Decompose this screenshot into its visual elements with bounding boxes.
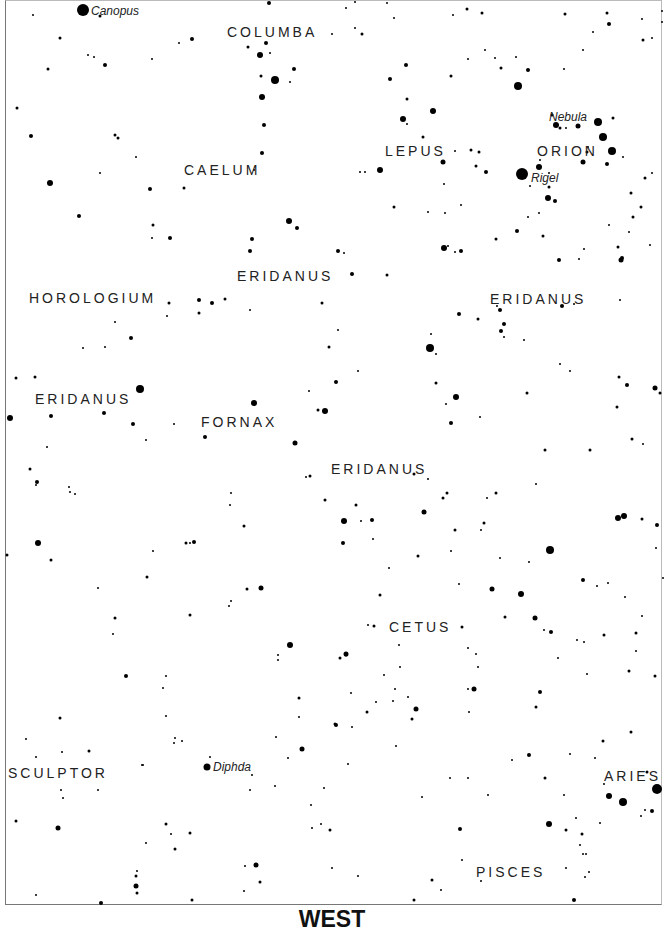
star-icon: [654, 675, 657, 678]
star-icon: [477, 318, 480, 321]
star-icon: [145, 439, 147, 441]
star-icon: [309, 475, 312, 478]
star-icon: [320, 823, 322, 825]
star-icon: [274, 785, 276, 787]
star-icon: [142, 764, 144, 766]
star-icon: [174, 848, 177, 851]
star-icon: [168, 302, 171, 305]
star-icon: [254, 863, 259, 868]
star-icon: [251, 400, 257, 406]
star-icon: [359, 171, 361, 173]
star-icon: [421, 796, 423, 798]
star-icon: [388, 77, 392, 81]
star-icon: [606, 12, 609, 15]
star-icon: [514, 82, 522, 90]
star-icon: [616, 406, 619, 409]
star-icon: [607, 582, 609, 584]
star-icon: [354, 27, 356, 29]
star-icon: [25, 738, 27, 740]
star-icon: [477, 666, 479, 668]
star-icon: [370, 518, 374, 522]
star-icon: [243, 525, 246, 528]
star-icon: [329, 829, 332, 832]
star-icon: [608, 224, 610, 226]
star-icon: [640, 206, 643, 209]
star-icon: [515, 229, 519, 233]
star-icon: [661, 10, 663, 12]
constellation-label: ERIDANUS: [35, 391, 131, 407]
star-icon: [446, 492, 449, 495]
star-icon: [632, 216, 635, 219]
star-icon: [630, 192, 633, 195]
star-icon: [470, 149, 473, 152]
star-icon: [364, 171, 366, 173]
star-icon: [377, 167, 383, 173]
star-icon: [458, 583, 460, 585]
star-icon: [259, 881, 262, 884]
star-icon: [350, 272, 354, 276]
star-icon: [173, 742, 175, 744]
star-icon: [582, 49, 584, 51]
star-icon: [93, 56, 95, 58]
star-icon: [87, 54, 89, 56]
star-icon: [467, 688, 469, 690]
star-icon: [442, 497, 445, 500]
star-icon: [499, 557, 501, 559]
star-icon: [259, 586, 264, 591]
constellation-label: CAELUM: [184, 162, 260, 178]
star-icon: [630, 731, 633, 734]
star-icon: [300, 747, 305, 752]
star-icon: [117, 137, 120, 140]
star-icon: [528, 561, 530, 563]
star-icon: [452, 14, 454, 16]
star-icon: [544, 449, 547, 452]
star-icon: [388, 567, 390, 569]
star-icon: [511, 759, 513, 761]
star-icon: [631, 438, 634, 441]
star-icon: [619, 299, 621, 301]
star-icon: [97, 587, 99, 589]
star-icon: [35, 756, 37, 758]
star-icon: [367, 624, 369, 626]
star-icon: [6, 554, 9, 557]
star-icon: [644, 809, 646, 811]
star-icon: [651, 172, 653, 174]
star-icon: [543, 629, 545, 631]
star-icon: [131, 422, 135, 426]
star-icon: [77, 4, 89, 16]
star-icon: [475, 165, 478, 168]
star-icon: [642, 443, 644, 445]
star-icon: [594, 118, 602, 126]
star-icon: [277, 654, 279, 656]
star-icon: [478, 151, 481, 154]
star-icon: [576, 124, 581, 129]
star-icon: [29, 468, 32, 471]
star-icon: [286, 218, 292, 224]
constellation-label: ERIDANUS: [237, 268, 333, 284]
star-icon: [431, 879, 434, 882]
star-icon: [393, 206, 396, 209]
star-icon: [393, 17, 395, 19]
star-icon: [151, 237, 153, 239]
star-icon: [515, 56, 517, 58]
star-icon: [209, 756, 211, 758]
star-icon: [165, 715, 167, 717]
star-icon: [454, 150, 456, 152]
star-icon: [170, 833, 172, 835]
star-icon: [357, 370, 359, 372]
star-icon: [399, 666, 401, 668]
star-icon: [400, 116, 406, 122]
star-icon: [538, 690, 542, 694]
star-icon: [267, 1, 271, 5]
star-icon: [443, 183, 445, 185]
star-icon: [230, 600, 232, 602]
star-icon: [653, 386, 658, 391]
star-icon: [612, 117, 615, 120]
star-icon: [500, 67, 503, 70]
star-icon: [69, 491, 71, 493]
star-icon: [417, 555, 420, 558]
constellation-label: ARIES: [604, 768, 661, 784]
star-icon: [99, 172, 101, 174]
star-icon: [535, 706, 538, 709]
star-icon: [351, 726, 353, 728]
